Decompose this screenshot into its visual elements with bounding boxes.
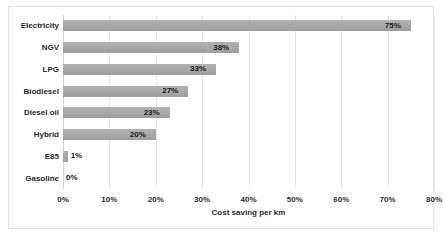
category-label-lpg: LPG	[9, 59, 59, 81]
x-axis-ticks: 0%10%20%30%40%50%60%70%80%	[63, 195, 434, 209]
bar-value-label: 27%	[162, 87, 178, 95]
bar-value-label: 38%	[213, 44, 229, 52]
plot-area: 75%38%33%27%23%20%1%0%	[63, 15, 434, 189]
category-label-diesel-oil: Diesel oil	[9, 102, 59, 124]
x-axis-title: Cost saving per km	[63, 208, 434, 217]
bar-value-label: 0%	[66, 174, 78, 182]
x-tick-50%: 50%	[287, 195, 303, 204]
category-label-biodiesel: Biodiesel	[9, 80, 59, 102]
bar-row[interactable]: 27%	[63, 80, 434, 102]
chart-frame: ElectricityNGVLPGBiodieselDiesel oilHybr…	[8, 6, 434, 229]
x-tick-40%: 40%	[240, 195, 256, 204]
bar-row[interactable]: 75%	[63, 15, 434, 37]
bar-row[interactable]: 1%	[63, 146, 434, 168]
bar-value-label: 33%	[190, 65, 206, 73]
x-tick-30%: 30%	[194, 195, 210, 204]
bar-row[interactable]: 33%	[63, 59, 434, 81]
category-label-hybrid: Hybrid	[9, 124, 59, 146]
x-tick-80%: 80%	[426, 195, 442, 204]
bar-row[interactable]: 23%	[63, 102, 434, 124]
category-label-gasoline: Gasoline	[9, 167, 59, 189]
bar-value-label: 20%	[130, 131, 146, 139]
bar-value-label: 1%	[71, 152, 83, 160]
bar-row[interactable]: 0%	[63, 167, 434, 189]
bars-layer: 75%38%33%27%23%20%1%0%	[63, 15, 434, 189]
category-label-e85: E85	[9, 146, 59, 168]
x-tick-70%: 70%	[380, 195, 396, 204]
bar-row[interactable]: 38%	[63, 37, 434, 59]
bar-e85[interactable]	[63, 151, 68, 162]
category-label-ngv: NGV	[9, 37, 59, 59]
gridline-80%	[434, 15, 435, 189]
x-tick-10%: 10%	[101, 195, 117, 204]
category-axis: ElectricityNGVLPGBiodieselDiesel oilHybr…	[9, 15, 59, 189]
bar-row[interactable]: 20%	[63, 124, 434, 146]
bar-electricity[interactable]	[63, 20, 411, 31]
category-label-electricity: Electricity	[9, 15, 59, 37]
x-tick-20%: 20%	[148, 195, 164, 204]
bar-value-label: 23%	[144, 109, 160, 117]
x-tick-0%: 0%	[57, 195, 69, 204]
bar-value-label: 75%	[385, 22, 401, 30]
x-tick-60%: 60%	[333, 195, 349, 204]
